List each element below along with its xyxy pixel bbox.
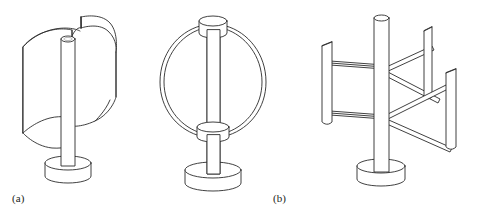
h-rotor-drawing xyxy=(300,0,486,218)
caption-a: (a) xyxy=(12,192,25,204)
straight-blade-lower-right xyxy=(446,69,456,149)
vertical-shaft xyxy=(374,15,389,172)
darrieus-rotor-drawing xyxy=(140,0,290,218)
caption-b: (b) xyxy=(273,192,286,204)
panel-h-rotor: (c) xyxy=(300,0,486,218)
straight-blade-left xyxy=(322,42,332,124)
straight-blade-upper-right xyxy=(424,27,432,99)
panel-darrieus-rotor: (b) xyxy=(140,0,290,218)
shaft-lower-segment xyxy=(207,135,220,174)
panel-savonius-rotor: (a) xyxy=(0,0,150,218)
figure-container: (a) xyxy=(0,0,486,218)
curved-blade-right xyxy=(225,26,266,135)
savonius-rotor-drawing xyxy=(0,0,150,218)
curved-blade-right xyxy=(70,16,116,126)
strut-lower-right-down xyxy=(380,117,452,152)
shaft-upper-segment xyxy=(207,30,220,126)
vertical-shaft xyxy=(61,36,75,166)
curved-blade-left xyxy=(160,26,201,135)
